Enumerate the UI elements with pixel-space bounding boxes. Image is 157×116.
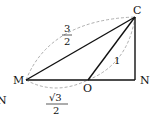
mo-denominator: 2 xyxy=(53,105,59,116)
mc-denominator: 2 xyxy=(64,36,70,47)
segment-mc xyxy=(26,17,135,80)
oc-value: 1 xyxy=(114,55,120,66)
geometry-diagram: C M O N N 3 2 1 √3 2 xyxy=(0,0,157,116)
stray-label-n: N xyxy=(0,94,7,107)
label-o: O xyxy=(83,82,92,95)
arc-mo xyxy=(26,80,88,88)
mc-numerator: 3 xyxy=(64,23,70,34)
label-n: N xyxy=(140,74,150,87)
label-c: C xyxy=(133,4,141,17)
label-m: M xyxy=(13,74,24,87)
segment-oc xyxy=(88,17,135,80)
mo-numerator: √3 xyxy=(49,92,62,103)
